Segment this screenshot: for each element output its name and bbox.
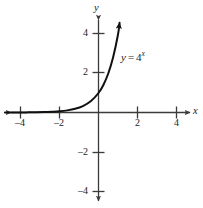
x-tick-label-neg2: –2 bbox=[54, 118, 64, 128]
equation-lhs: y bbox=[121, 51, 126, 63]
equation-operator: = bbox=[128, 51, 134, 63]
exponential-curve bbox=[5, 23, 120, 113]
x-tick-label-pos2: 2 bbox=[135, 118, 140, 128]
y-tick-label-neg4: –4 bbox=[78, 186, 88, 196]
y-axis-label: y bbox=[94, 3, 99, 14]
y-tick-label-pos2: 2 bbox=[83, 67, 88, 77]
x-tick-label-pos4: 4 bbox=[174, 118, 179, 128]
curve-equation-label: y=4x bbox=[121, 52, 145, 63]
x-tick-label-neg4: –4 bbox=[15, 118, 25, 128]
equation-exponent: x bbox=[142, 49, 145, 58]
x-axis-label: x bbox=[193, 106, 198, 117]
y-axis bbox=[93, 20, 105, 201]
y-tick-label-neg2: –2 bbox=[78, 147, 88, 157]
graph-canvas bbox=[0, 0, 203, 208]
exponential-function-graph: –4 –2 2 4 4 2 –2 –4 y x y=4x bbox=[0, 0, 203, 208]
y-tick-label-pos4: 4 bbox=[83, 28, 88, 38]
